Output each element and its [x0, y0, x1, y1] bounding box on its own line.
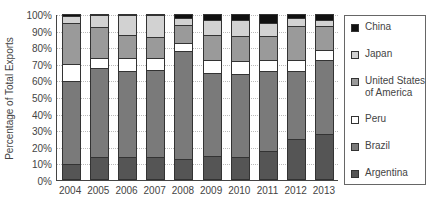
bar-segment-peru: [90, 59, 109, 69]
bar-segment-peru: [315, 51, 334, 61]
legend-item-united-states-of-america: United States of America: [351, 75, 425, 99]
bar-segment-brazil: [174, 52, 193, 160]
bar-2009: [203, 14, 222, 180]
legend-swatch-icon: [351, 51, 359, 59]
legend-label: Japan: [365, 48, 392, 60]
bar-segment-argentina: [287, 140, 306, 180]
bar-segment-argentina: [259, 152, 278, 180]
legend-label: Argentina: [365, 167, 408, 179]
bar-segment-argentina: [62, 165, 81, 180]
bar-segment-peru: [231, 62, 250, 75]
bar-segment-japan: [259, 24, 278, 37]
bar-segment-china: [259, 14, 278, 24]
bar-segment-united-states-of-america: [287, 27, 306, 60]
bar-2008: [174, 14, 193, 180]
legend-swatch-icon: [351, 143, 359, 151]
bar-segment-china: [203, 14, 222, 21]
x-tick-label: 2012: [281, 185, 311, 196]
bar-segment-japan: [62, 17, 81, 24]
bar-segment-argentina: [146, 158, 165, 180]
bar-segment-brazil: [203, 74, 222, 157]
bar-2007: [146, 14, 165, 180]
x-tick-label: 2010: [224, 185, 254, 196]
y-tick-label: 80%: [18, 43, 52, 54]
y-tick-label: 90%: [18, 26, 52, 37]
legend-swatch-icon: [351, 116, 359, 124]
bar-2012: [287, 14, 306, 180]
legend-label: Brazil: [365, 140, 390, 152]
bar-segment-united-states-of-america: [315, 27, 334, 50]
legend-label: Peru: [365, 113, 386, 125]
bar-segment-peru: [203, 61, 222, 74]
bar-segment-japan: [287, 19, 306, 27]
legend-label: China: [365, 21, 391, 33]
bar-segment-united-states-of-america: [118, 36, 137, 59]
bar-segment-united-states-of-america: [62, 24, 81, 66]
legend-item-japan: Japan: [351, 48, 392, 60]
bar-segment-japan: [174, 19, 193, 26]
bar-segment-japan: [118, 16, 137, 36]
y-tick-label: 20%: [18, 142, 52, 153]
y-tick-label: 100%: [18, 10, 52, 21]
bar-segment-brazil: [90, 69, 109, 158]
bar-segment-united-states-of-america: [231, 37, 250, 62]
bar-segment-united-states-of-america: [90, 28, 109, 59]
bar-2011: [259, 14, 278, 180]
x-tick-label: 2008: [168, 185, 198, 196]
bar-2006: [118, 14, 137, 180]
bar-segment-peru: [146, 59, 165, 71]
y-tick-label: 50%: [18, 93, 52, 104]
bar-segment-united-states-of-america: [203, 36, 222, 61]
x-tick-label: 2007: [140, 185, 170, 196]
bar-segment-peru: [174, 44, 193, 52]
legend-item-china: China: [351, 21, 391, 33]
bar-segment-brazil: [231, 75, 250, 158]
bar-segment-argentina: [118, 158, 137, 180]
bar-segment-argentina: [231, 158, 250, 180]
bar-segment-brazil: [259, 72, 278, 152]
bar-segment-japan: [315, 21, 334, 28]
y-axis-label: Percentage of Total Exports: [2, 15, 16, 181]
y-tick-label: 60%: [18, 76, 52, 87]
bar-2010: [231, 14, 250, 180]
y-tick-label: 0%: [18, 176, 52, 187]
y-axis-label-text: Percentage of Total Exports: [4, 37, 15, 160]
bar-2013: [315, 14, 334, 180]
bar-segment-china: [231, 14, 250, 21]
y-tick-label: 30%: [18, 126, 52, 137]
bar-segment-peru: [287, 61, 306, 73]
bar-segment-brazil: [62, 82, 81, 165]
legend-swatch-icon: [351, 24, 359, 32]
bar-2004: [62, 14, 81, 180]
bar-segment-peru: [118, 59, 137, 72]
legend-item-brazil: Brazil: [351, 140, 390, 152]
bar-segment-argentina: [174, 160, 193, 180]
x-tick-label: 2009: [196, 185, 226, 196]
legend-item-peru: Peru: [351, 113, 386, 125]
bar-segment-brazil: [287, 72, 306, 140]
bar-segment-peru: [259, 61, 278, 73]
bar-segment-argentina: [203, 157, 222, 180]
x-tick-label: 2005: [83, 185, 113, 196]
bar-segment-brazil: [118, 72, 137, 158]
bar-segment-japan: [90, 16, 109, 28]
bar-segment-peru: [62, 65, 81, 82]
x-tick-label: 2006: [112, 185, 142, 196]
x-tick-label: 2011: [253, 185, 283, 196]
bar-segment-brazil: [146, 71, 165, 159]
bar-segment-argentina: [315, 135, 334, 180]
x-tick-label: 2013: [309, 185, 339, 196]
legend-swatch-icon: [351, 170, 359, 178]
legend: ChinaJapanUnited States of AmericaPeruBr…: [344, 15, 426, 185]
bar-segment-brazil: [315, 61, 334, 136]
bar-segment-united-states-of-america: [174, 26, 193, 44]
legend-item-argentina: Argentina: [351, 167, 408, 179]
legend-label: United States of America: [365, 75, 425, 99]
bar-segment-united-states-of-america: [146, 38, 165, 60]
bar-segment-united-states-of-america: [259, 37, 278, 60]
bar-2005: [90, 14, 109, 180]
bar-segment-china: [315, 14, 334, 21]
bar-segment-japan: [203, 21, 222, 36]
bar-segment-japan: [231, 21, 250, 38]
bar-segment-japan: [146, 16, 165, 38]
